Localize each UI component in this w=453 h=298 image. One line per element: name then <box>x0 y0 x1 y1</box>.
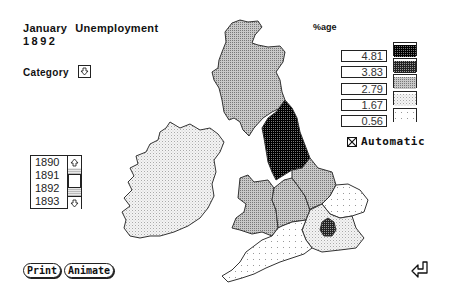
down-arrow-icon <box>70 199 79 208</box>
year-list-item-selected[interactable]: 1892 <box>31 182 67 195</box>
map-title: JanuaryUnemployment <box>23 22 158 35</box>
legend-swatch-3 <box>393 74 417 88</box>
scroll-thumb[interactable] <box>68 174 81 188</box>
animate-button[interactable]: Animate <box>64 263 114 278</box>
region-ireland <box>122 122 224 238</box>
legend-heading: %age <box>313 22 337 32</box>
title-month: January <box>23 22 67 34</box>
up-arrow-icon <box>70 158 79 167</box>
legend-value-1[interactable]: 4.81 <box>341 50 387 62</box>
region-wales <box>232 175 278 236</box>
year-list[interactable]: 1890 1891 1892 1893 <box>30 155 82 209</box>
print-button[interactable]: Print <box>23 263 61 278</box>
legend-value-5[interactable]: 0.56 <box>341 115 387 127</box>
legend-value-3[interactable]: 2.79 <box>341 83 387 95</box>
automatic-checkbox[interactable]: Automatic <box>347 135 425 148</box>
year-list-scrollbar[interactable] <box>67 156 81 208</box>
year-list-item[interactable]: 1893 <box>31 195 67 208</box>
title-year: 1892 <box>23 35 57 47</box>
legend-swatch-5 <box>393 108 417 122</box>
checkbox-checked-icon[interactable] <box>347 137 357 147</box>
down-arrow-icon <box>80 67 89 76</box>
category-dropdown-button[interactable] <box>78 65 91 78</box>
year-list-item[interactable]: 1890 <box>31 156 67 169</box>
legend-swatch-2 <box>393 58 417 72</box>
automatic-label: Automatic <box>361 135 425 148</box>
title-subject: Unemployment <box>75 22 158 34</box>
return-button[interactable] <box>409 258 431 280</box>
legend-value-4[interactable]: 1.67 <box>341 99 387 111</box>
uk-choropleth-map <box>0 0 453 298</box>
legend-swatch-4 <box>393 91 417 105</box>
return-arrow-icon <box>409 258 431 280</box>
year-list-item[interactable]: 1891 <box>31 169 67 182</box>
scroll-down-button[interactable] <box>68 196 81 209</box>
legend-swatch-1 <box>393 42 417 56</box>
legend-value-2[interactable]: 3.83 <box>341 66 387 78</box>
category-label: Category <box>23 67 69 78</box>
